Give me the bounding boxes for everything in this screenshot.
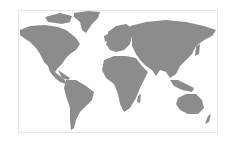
madagascar (137, 94, 141, 103)
greenland (74, 11, 100, 33)
world-map (0, 0, 235, 142)
arctic-islands (45, 13, 72, 24)
africa (102, 56, 148, 112)
south-america (64, 80, 94, 130)
north-america (20, 25, 80, 84)
europe (106, 24, 132, 52)
australia (176, 94, 204, 114)
new-zealand (205, 114, 211, 124)
southeast-asia-islands (170, 80, 194, 92)
